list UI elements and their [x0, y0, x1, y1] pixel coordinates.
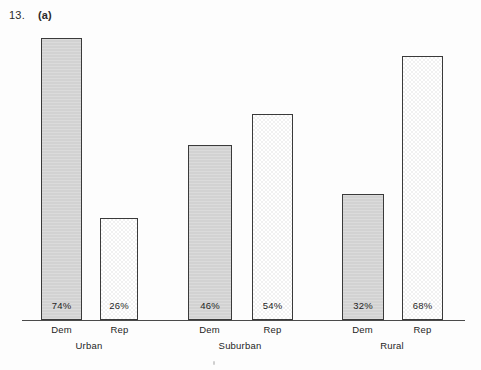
bar-value-label: 46%	[189, 300, 231, 311]
tick-label-urban-rep: Rep	[94, 324, 145, 335]
bar-chart-plot: 74% 26% 46% 54% 32% 68% Dem Rep Dem Rep …	[0, 0, 481, 370]
group-label-suburban: Suburban	[208, 340, 272, 351]
bar-value-label: 74%	[42, 300, 81, 311]
scan-artifact-speck	[213, 361, 215, 365]
bar-suburban-dem: 46%	[188, 145, 232, 320]
bar-urban-rep: 26%	[100, 218, 138, 320]
tick-label-rural-dem: Dem	[337, 324, 388, 335]
tick-label-suburban-rep: Rep	[247, 324, 298, 335]
bar-urban-dem: 74%	[41, 38, 82, 320]
bar-rural-rep: 68%	[402, 56, 443, 320]
bar-value-label: 68%	[403, 300, 442, 311]
bar-value-label: 32%	[343, 300, 383, 311]
tick-label-urban-dem: Dem	[36, 324, 87, 335]
bar-value-label: 26%	[101, 300, 137, 311]
figure-container: 13.(a) 74% 26% 46% 54% 32% 68% Dem Rep	[0, 0, 481, 370]
group-label-rural: Rural	[360, 340, 424, 351]
x-axis-baseline	[22, 320, 465, 321]
bar-suburban-rep: 54%	[252, 114, 293, 320]
tick-label-suburban-dem: Dem	[184, 324, 235, 335]
bar-rural-dem: 32%	[342, 194, 384, 320]
bar-value-label: 54%	[253, 300, 292, 311]
tick-label-rural-rep: Rep	[397, 324, 448, 335]
group-label-urban: Urban	[57, 340, 121, 351]
